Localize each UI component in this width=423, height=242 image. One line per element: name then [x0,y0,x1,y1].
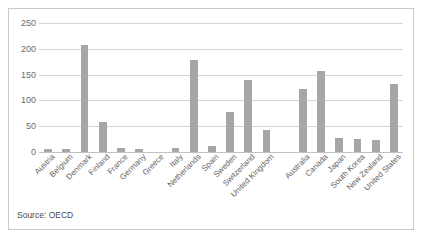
y-axis-tick-labels: 050100150200250 [8,23,36,152]
bar-chart-figure: 050100150200250 AustriaBelgiumDenmarkFin… [0,0,423,242]
y-tick-label-250: 250 [21,19,36,28]
y-tick-label-50: 50 [26,122,36,131]
bar [81,45,89,152]
bar [190,60,198,152]
bar [317,71,325,152]
bar [226,112,234,152]
bar [99,122,107,152]
bar [244,80,252,152]
bar [263,130,271,152]
bar [117,148,125,152]
y-tick-label-100: 100 [21,96,36,105]
source-note: Source: OECD [17,211,73,220]
bar [208,146,216,152]
bar [62,149,70,152]
bar [354,139,362,152]
bar [135,149,143,152]
y-tick-label-200: 200 [21,44,36,53]
bar [335,138,343,152]
plot-area [39,23,403,152]
y-tick-label-0: 0 [31,148,36,157]
bar [372,140,380,152]
bar-series [39,23,403,152]
bar [44,149,52,152]
x-axis-tick-labels: AustriaBelgiumDenmarkFinlandFranceGerman… [39,153,403,211]
y-tick-label-150: 150 [21,70,36,79]
bar [299,89,307,152]
bar [390,84,398,152]
